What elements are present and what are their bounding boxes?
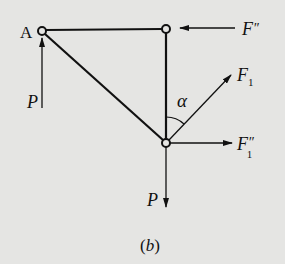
label-F-double-prime: F″: [241, 19, 259, 39]
label-F1: F1: [236, 65, 254, 88]
figure-caption: (b): [140, 236, 160, 255]
joint-A: [38, 27, 46, 35]
label-P-at-A: P: [26, 92, 38, 112]
joint-top-right: [162, 25, 170, 33]
member-diagonal: [45, 34, 163, 140]
angle-alpha-arc: [166, 117, 184, 124]
truss-members: [45, 29, 166, 140]
diagram-canvas: A F″ F1 α P F″1 P (b): [0, 0, 285, 264]
label-A: A: [20, 23, 33, 42]
label-F1-double-prime: F″1: [236, 134, 254, 160]
member-top: [46, 29, 162, 30]
label-P-at-bottom: P: [146, 190, 158, 210]
label-alpha: α: [177, 90, 188, 111]
joint-bottom: [162, 139, 170, 147]
truss-free-body-diagram: A F″ F1 α P F″1 P (b): [0, 0, 285, 264]
